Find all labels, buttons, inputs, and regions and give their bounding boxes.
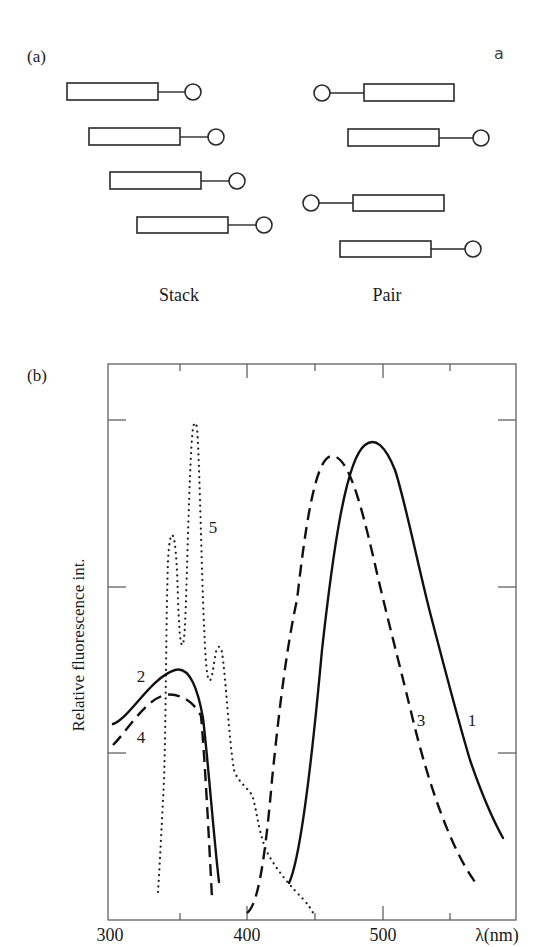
stack-unit — [89, 128, 224, 145]
curve-label-4: 4 — [137, 728, 146, 747]
stack-unit — [110, 172, 245, 189]
bead-circle — [185, 84, 201, 100]
curve-3 — [247, 456, 475, 913]
bead-circle — [229, 173, 245, 189]
stack-caption: Stack — [159, 285, 199, 305]
chromophore-rect — [353, 195, 444, 211]
figure: (a) a Stack Pair (b) Relative fluorescen… — [0, 0, 544, 947]
panel-a: (a) a Stack Pair — [27, 44, 504, 305]
chromophore-rect — [340, 241, 431, 257]
pair-caption: Pair — [373, 285, 402, 305]
x-tick-500: 500 — [370, 925, 397, 945]
pair-diagram — [303, 84, 489, 257]
curve-5 — [158, 423, 313, 913]
bead-circle — [256, 217, 272, 233]
chromophore-rect — [67, 83, 158, 100]
bead-circle — [465, 241, 481, 257]
curve-1 — [289, 442, 503, 883]
pair-unit — [340, 241, 481, 257]
chromophore-rect — [364, 84, 454, 101]
panel-b: (b) Relative fluorescence int. 300 400 5… — [27, 364, 519, 946]
bead-circle — [303, 195, 319, 211]
curve-label-5: 5 — [209, 518, 218, 537]
bead-circle — [473, 130, 489, 146]
chromophore-rect — [89, 128, 180, 145]
chromophore-rect — [348, 129, 439, 146]
y-axis-label: Relative fluorescence int. — [69, 558, 88, 731]
x-axis-label: λ(nm) — [475, 925, 519, 946]
x-ticks — [180, 364, 450, 920]
bead-circle — [314, 85, 330, 101]
chromophore-rect — [110, 172, 201, 189]
chromophore-rect — [137, 217, 228, 233]
curve-2 — [113, 670, 219, 882]
curve-4 — [113, 695, 212, 898]
panel-a-label: (a) — [27, 47, 46, 66]
pair-unit — [348, 129, 489, 146]
plot-frame — [108, 364, 516, 920]
pair-unit — [303, 195, 444, 211]
curve-label-2: 2 — [137, 667, 146, 686]
curve-label-3: 3 — [417, 711, 426, 730]
panel-b-label: (b) — [27, 366, 47, 385]
bead-circle — [208, 129, 224, 145]
pair-unit — [314, 84, 454, 101]
corner-mark: a — [494, 44, 504, 63]
x-tick-400: 400 — [234, 925, 261, 945]
stack-unit — [67, 83, 201, 100]
stack-diagram — [67, 83, 272, 233]
curve-label-1: 1 — [468, 711, 477, 730]
x-tick-300: 300 — [97, 925, 124, 945]
stack-unit — [137, 217, 272, 233]
